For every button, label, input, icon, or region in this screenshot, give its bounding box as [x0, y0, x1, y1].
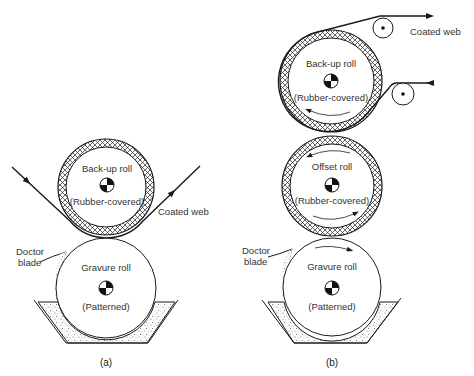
gravure-coater-diagram: Back-up roll (Rubber-covered) Gravure ro…	[0, 0, 474, 376]
caption-a: (a)	[100, 357, 112, 368]
blade-label-a: blade	[18, 257, 41, 268]
backup-roll-note-a: (Rubber-covered)	[70, 196, 144, 207]
gravure-roll-note-a: (Patterned)	[82, 301, 130, 312]
center-mark-icon	[325, 178, 339, 192]
idler-roll-top	[373, 18, 393, 38]
gravure-roll-label-b: Gravure roll	[307, 261, 357, 272]
coated-web-label-a: Coated web	[158, 206, 209, 217]
panel-a: Back-up roll (Rubber-covered) Gravure ro…	[12, 139, 209, 368]
center-mark-icon	[99, 281, 113, 295]
caption-b: (b)	[326, 357, 338, 368]
idler-roll-lower	[392, 83, 414, 105]
center-mark-icon	[324, 74, 338, 88]
gravure-roll-label-a: Gravure roll	[81, 262, 131, 273]
offset-roll-label-b: Offset roll	[312, 161, 352, 172]
gravure-roll-note-b: (Patterned)	[308, 301, 356, 312]
center-mark-icon	[325, 281, 339, 295]
offset-roll-note-b: (Rubber-covered)	[295, 195, 369, 206]
center-mark-icon	[100, 178, 114, 192]
panel-b: Back-up roll (Rubber-covered) Offset rol…	[242, 16, 461, 368]
backup-roll-label-b: Back-up roll	[306, 58, 356, 69]
doctor-label-a: Doctor	[16, 246, 44, 257]
backup-roll-note-b: (Rubber-covered)	[294, 92, 368, 103]
doctor-label-b: Doctor	[242, 245, 270, 256]
backup-roll-label-a: Back-up roll	[82, 163, 132, 174]
blade-label-b: blade	[244, 256, 267, 267]
coated-web-label-b: Coated web	[410, 26, 461, 37]
